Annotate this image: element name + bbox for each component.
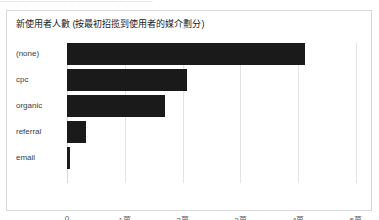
bar-row[interactable]: (none) xyxy=(7,41,373,67)
x-axis-ticks: 01萬2萬3萬4萬5萬 xyxy=(7,214,373,220)
bar[interactable] xyxy=(67,95,165,117)
bar-category-label: (none) xyxy=(16,41,39,67)
bar-series: (none)cpcorganicreferralemail xyxy=(7,41,373,183)
report-card: 新使用者人數 (按最初招揽到使用者的媒介劃分) (none)cpcorganic… xyxy=(6,10,372,211)
bar-category-label: cpc xyxy=(16,67,28,93)
bar-category-label: organic xyxy=(16,93,42,119)
bar[interactable] xyxy=(67,69,187,91)
bar-category-label: referral xyxy=(16,119,41,145)
x-tick-label: 4萬 xyxy=(292,214,304,220)
clipped-top-text: —————————————————— xyxy=(0,0,379,8)
chart-plot-area: (none)cpcorganicreferralemail 01萬2萬3萬4萬5… xyxy=(7,41,373,196)
chart-title: 新使用者人數 (按最初招揽到使用者的媒介劃分) xyxy=(16,18,205,30)
bar-row[interactable]: organic xyxy=(7,93,373,119)
bar-row[interactable]: cpc xyxy=(7,67,373,93)
bar-row[interactable]: email xyxy=(7,145,373,171)
bar[interactable] xyxy=(67,43,305,65)
bar-row[interactable]: referral xyxy=(7,119,373,145)
bar[interactable] xyxy=(67,121,86,143)
x-tick-label: 1萬 xyxy=(119,214,131,220)
screenshot-root: —————————————————— 新使用者人數 (按最初招揽到使用者的媒介劃… xyxy=(0,0,379,220)
x-tick-label: 5萬 xyxy=(350,214,362,220)
bar-category-label: email xyxy=(16,145,35,171)
x-tick-label: 2萬 xyxy=(176,214,188,220)
x-tick-label: 0 xyxy=(65,214,69,220)
x-tick-label: 3萬 xyxy=(234,214,246,220)
bar[interactable] xyxy=(67,147,70,169)
